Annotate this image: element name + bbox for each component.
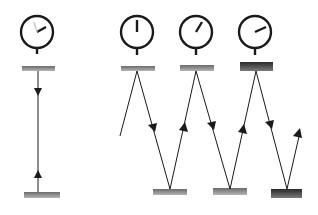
arrow-down-icon	[207, 121, 216, 130]
stationary-light-clock	[21, 16, 60, 198]
clock-icon	[121, 16, 153, 55]
arrow-up-icon	[238, 124, 247, 134]
light-path-zigzag	[120, 71, 300, 189]
arrow-down-icon	[265, 120, 274, 129]
top-mirror	[240, 62, 273, 71]
arrow-up-icon	[179, 122, 188, 132]
arrow-down-icon	[34, 88, 42, 96]
top-mirror	[22, 66, 55, 71]
arrow-up-icon	[34, 170, 42, 178]
light-clock-diagram	[0, 0, 318, 215]
clock-icon	[239, 16, 271, 55]
clock-icon	[21, 16, 53, 54]
arrow-up-icon	[293, 128, 302, 138]
top-mirror	[180, 65, 214, 71]
bottom-mirror	[24, 192, 60, 198]
clock-icon	[180, 16, 212, 55]
arrow-down-icon	[148, 123, 157, 132]
bottom-mirror	[153, 189, 187, 195]
bottom-mirror	[271, 189, 302, 198]
top-mirror	[121, 66, 155, 71]
moving-light-clock	[120, 16, 302, 198]
